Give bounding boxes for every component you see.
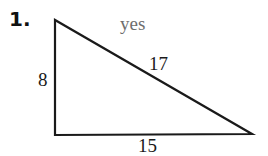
side-label-left-leg: 8 — [38, 70, 48, 89]
side-label-bottom-leg: 15 — [138, 136, 157, 155]
triangle-shape — [55, 20, 252, 135]
side-label-hypotenuse: 17 — [149, 54, 168, 73]
